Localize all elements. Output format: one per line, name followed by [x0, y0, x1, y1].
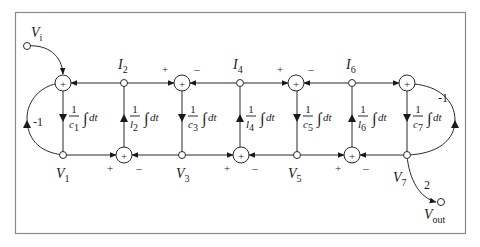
- svg-text:∫: ∫: [371, 110, 378, 129]
- integrator-c7: 1 c7 ∫ dt: [413, 103, 443, 133]
- svg-text:dt: dt: [89, 111, 99, 123]
- svg-text:–: –: [362, 162, 369, 174]
- svg-text:+: +: [293, 78, 299, 90]
- integrator-c3: 1 c3 ∫ dt: [188, 103, 218, 133]
- node-i2: [121, 80, 128, 87]
- label-v5: V5: [288, 166, 302, 184]
- svg-text:dt: dt: [266, 111, 276, 123]
- svg-text:–: –: [135, 162, 142, 174]
- svg-text:+: +: [238, 150, 244, 162]
- svg-text:dt: dt: [433, 111, 443, 123]
- node-v7: [404, 152, 411, 159]
- arrow-down-icon: [293, 114, 301, 122]
- svg-text:+: +: [107, 162, 113, 174]
- svg-text:1: 1: [360, 103, 366, 115]
- svg-text:+: +: [277, 63, 283, 75]
- integrator-c1: 1 c1 ∫ dt: [69, 103, 99, 133]
- integrator-l6: 1 l6 ∫ dt: [358, 103, 388, 133]
- arrow-down-icon: [59, 114, 67, 122]
- integrator-c5: 1 c5 ∫ dt: [303, 103, 333, 133]
- svg-text:–: –: [193, 63, 200, 75]
- node-v3: [179, 152, 186, 159]
- label-v3: V3: [176, 166, 190, 184]
- node-vi: [24, 43, 31, 50]
- svg-text:–: –: [251, 162, 258, 174]
- summer-top-1: +: [55, 75, 71, 91]
- label-vout: Vout: [424, 207, 446, 225]
- arrow-up-icon: [348, 114, 356, 122]
- summer-bottom-2: +: [233, 147, 249, 163]
- svg-text:c1: c1: [69, 118, 79, 133]
- integrator-l4: 1 l4 ∫ dt: [246, 103, 276, 133]
- summer-bottom-1: +: [116, 147, 132, 163]
- svg-text:dt: dt: [378, 111, 388, 123]
- label-output-gain: 2: [424, 178, 430, 192]
- svg-text:1: 1: [248, 103, 254, 115]
- node-i6: [349, 80, 356, 87]
- svg-text:1: 1: [132, 103, 138, 115]
- svg-text:+: +: [404, 78, 410, 90]
- arrow-up-icon: [23, 120, 31, 128]
- integrator-l2: 1 l2 ∫ dt: [130, 103, 160, 133]
- node-v5: [294, 152, 301, 159]
- summer-bottom-3: +: [344, 147, 360, 163]
- svg-text:–: –: [307, 63, 314, 75]
- label-i2: I2: [117, 57, 128, 75]
- svg-text:l4: l4: [246, 118, 254, 133]
- svg-text:∫: ∫: [426, 110, 433, 129]
- svg-text:∫: ∫: [259, 110, 266, 129]
- svg-text:c5: c5: [303, 118, 313, 133]
- svg-text:+: +: [349, 150, 355, 162]
- label-v7: V7: [393, 170, 407, 188]
- label-i6: I6: [345, 57, 356, 75]
- svg-text:∫: ∫: [143, 110, 150, 129]
- label-v1: V1: [56, 166, 70, 184]
- svg-text:1: 1: [190, 103, 196, 115]
- svg-text:+: +: [60, 78, 66, 90]
- svg-text:dt: dt: [208, 111, 218, 123]
- arrow-up-icon: [451, 120, 459, 128]
- label-feedback-right: -1: [438, 91, 448, 105]
- node-v1: [60, 152, 67, 159]
- svg-text:l2: l2: [130, 118, 138, 133]
- svg-text:l6: l6: [358, 118, 366, 133]
- svg-text:∫: ∫: [201, 110, 208, 129]
- summer-top-4: +: [399, 75, 415, 91]
- svg-text:dt: dt: [150, 111, 160, 123]
- svg-text:+: +: [162, 63, 168, 75]
- svg-text:1: 1: [71, 103, 77, 115]
- label-vi: Vi: [31, 25, 43, 43]
- svg-text:1: 1: [415, 103, 421, 115]
- summer-top-2: +: [174, 75, 190, 91]
- leapfrog-filter-diagram: + + + + + + + + – + – + – + – + – Vi I2 …: [0, 0, 480, 247]
- arrow-up-icon: [120, 114, 128, 122]
- svg-text:+: +: [179, 78, 185, 90]
- svg-text:∫: ∫: [316, 110, 323, 129]
- arrow-down-icon: [178, 114, 186, 122]
- summer-top-3: +: [288, 75, 304, 91]
- svg-text:+: +: [335, 162, 341, 174]
- svg-text:+: +: [121, 150, 127, 162]
- node-i4: [237, 80, 244, 87]
- node-vout: [438, 199, 445, 206]
- svg-text:c3: c3: [188, 118, 198, 133]
- svg-text:c7: c7: [413, 118, 423, 133]
- svg-text:∫: ∫: [82, 110, 89, 129]
- svg-text:1: 1: [305, 103, 311, 115]
- label-i4: I4: [232, 57, 243, 75]
- arrow-down-icon: [403, 114, 411, 122]
- label-feedback-left: -1: [33, 115, 43, 129]
- arrow-up-icon: [236, 114, 244, 122]
- svg-text:dt: dt: [323, 111, 333, 123]
- svg-text:+: +: [224, 162, 230, 174]
